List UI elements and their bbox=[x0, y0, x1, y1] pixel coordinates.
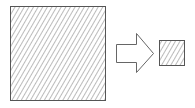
large-square bbox=[11, 7, 106, 101]
diagram-canvas bbox=[0, 0, 195, 108]
small-square bbox=[160, 41, 185, 66]
arrow-right-icon bbox=[117, 34, 154, 73]
